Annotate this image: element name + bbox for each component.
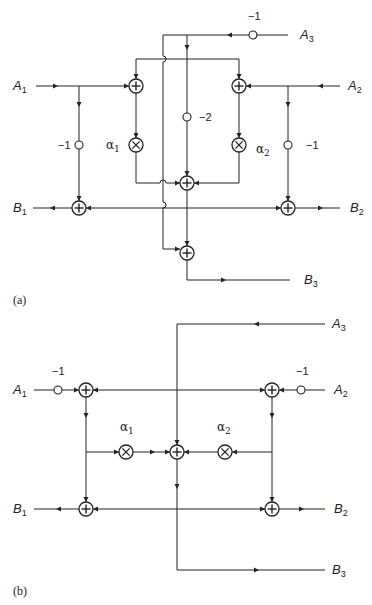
alpha1-label: α1 [106, 138, 120, 154]
gain-label-right-b: −1 [296, 365, 309, 377]
sum-node-b2-b [265, 502, 279, 516]
diagram-a: −1 A3 −2 A1 −1 A2 [12, 10, 364, 307]
sum-node-a2 [232, 79, 246, 93]
gain-node-right-b [297, 386, 305, 394]
gain-label-a3: −1 [248, 10, 261, 22]
gain-label-center: −2 [199, 111, 212, 123]
output-label-b1-b: B1 [13, 501, 27, 518]
sum-node-b2 [281, 201, 295, 215]
sum-node-b1 [72, 201, 86, 215]
input-label-a2-b: A2 [333, 382, 348, 399]
output-label-b3: B3 [304, 272, 318, 289]
input-label-a3: A3 [299, 27, 314, 44]
sum-node-center [180, 176, 194, 190]
output-label-b2: B2 [350, 200, 364, 217]
sum-node-a1 [129, 79, 143, 93]
sum-node-a2-b [265, 383, 279, 397]
input-label-a1-b: A1 [12, 382, 27, 399]
alpha2-label-b: α2 [217, 420, 231, 436]
signal-flow-diagrams: −1 A3 −2 A1 −1 A2 [0, 0, 372, 605]
caption-b: (b) [13, 584, 27, 598]
gain-label-left: −1 [58, 139, 71, 151]
gain-node-a3 [249, 31, 257, 39]
gain-node-left [75, 141, 83, 149]
sum-node-b3 [180, 246, 194, 260]
sum-node-center-b [170, 445, 184, 459]
multiplier-node-alpha2 [232, 138, 246, 152]
diagram-b: A3 A1 −1 A2 −1 α1 [12, 316, 348, 598]
multiplier-node-alpha2-b [218, 445, 232, 459]
gain-node-left-b [54, 386, 62, 394]
gain-node-center [183, 113, 191, 121]
sum-node-b1-b [79, 502, 93, 516]
sum-node-a1-b [79, 383, 93, 397]
input-label-a1: A1 [12, 78, 27, 95]
input-label-a3-b: A3 [331, 316, 346, 333]
output-label-b2-b: B2 [334, 501, 348, 518]
alpha1-label-b: α1 [120, 420, 134, 436]
output-label-b3-b: B3 [332, 562, 346, 579]
input-label-a2: A2 [347, 78, 362, 95]
multiplier-node-alpha1 [129, 138, 143, 152]
output-label-b1: B1 [13, 200, 27, 217]
gain-node-right [284, 141, 292, 149]
gain-label-right: −1 [306, 139, 319, 151]
caption-a: (a) [13, 293, 26, 307]
gain-label-left-b: −1 [52, 365, 65, 377]
multiplier-node-alpha1-b [119, 445, 133, 459]
alpha2-label: α2 [256, 142, 270, 158]
